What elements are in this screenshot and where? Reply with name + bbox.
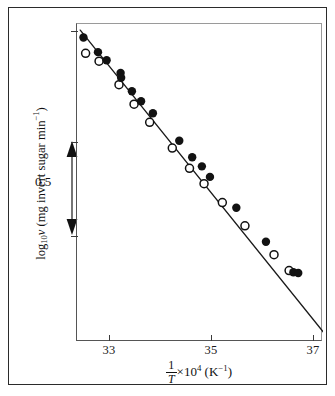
data-point-open [218,199,226,207]
x-tick-label-33: 33 [103,343,116,358]
x-axis-title: 1 T ×104 (K−1) [76,360,322,386]
data-point-open [130,100,138,108]
x-tick-33 [109,335,110,341]
x-tick-35 [211,335,212,341]
x-axis-title-multiplier: ×10 [177,364,197,379]
y-axis-title-units-close: ) [34,107,48,111]
data-point-open [82,49,90,57]
data-point-filled [149,109,157,117]
data-point-filled [128,87,136,95]
scatter-plot-svg [77,24,323,342]
x-tick-37 [313,335,314,341]
y-axis-title-units-exp: −1 [31,111,41,120]
x-axis-title-numerator: 1 [166,359,177,373]
plot-frame [76,23,322,341]
data-point-filled [232,204,240,212]
x-axis-title-exponent: 4 [197,363,201,373]
x-axis-title-units: (K [205,364,219,379]
data-point-open [200,180,208,188]
x-tick-label-35: 35 [205,343,218,358]
data-point-filled [79,33,87,41]
x-axis-title-denominator: T [166,373,177,386]
data-point-open [146,118,154,126]
data-point-filled [102,56,110,64]
x-axis-title-units-exponent: −1 [218,363,227,373]
plot-area [77,24,321,340]
cut-off-caption [10,387,325,395]
data-point-filled [206,173,214,181]
open-circle-markers [82,49,293,274]
x-axis-title-units-close: ) [228,364,232,379]
data-point-filled [262,238,270,246]
data-point-open [186,164,194,172]
data-point-filled [188,153,196,161]
data-point-filled [198,162,206,170]
x-tick-label-37: 37 [307,343,320,358]
data-point-filled [294,269,302,277]
y-scale-bar-label: 0.5 [35,174,51,190]
data-point-filled [175,136,183,144]
data-point-filled [94,48,102,56]
x-axis-title-fraction: 1 T [166,359,177,385]
data-point-open [241,222,249,230]
data-point-open [270,251,278,259]
y-axis-title-nu: ν [34,230,48,236]
data-point-filled [117,74,125,82]
data-point-open [95,57,103,65]
y-axis-title-base: 10 [39,235,49,244]
data-point-open [168,144,176,152]
data-point-filled [137,97,145,105]
y-axis-title-log: log [34,244,48,260]
figure-box: log10ν (mg invert sugar min−1) 0.5 33353… [8,7,327,385]
